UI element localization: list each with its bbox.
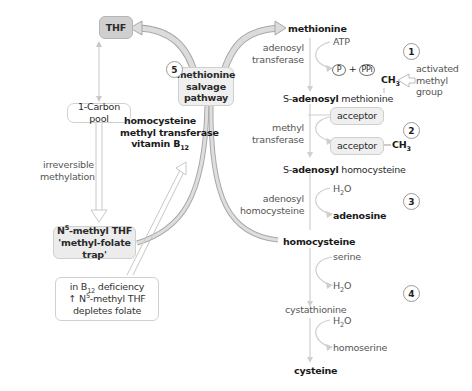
step-1-badge: 1 xyxy=(403,43,420,60)
salvage-line3: pathway xyxy=(184,92,228,104)
activated-methyl-arrow xyxy=(398,74,415,87)
step3-enzyme-label: adenosyl homocysteine xyxy=(240,193,304,216)
pathway-arrows xyxy=(0,0,472,391)
methionine-label: methionine xyxy=(288,23,347,35)
step-4-badge: 4 xyxy=(403,285,420,302)
homoserine-label: homoserine xyxy=(333,342,387,354)
arrow-thf-carbon-pool xyxy=(96,41,102,102)
h2o-step4a: H2O xyxy=(333,280,351,292)
n5-line1: N5-methyl THF xyxy=(57,225,132,237)
acceptor-input-box: acceptor xyxy=(330,107,384,125)
activated-methyl-group-label: activated methyl group xyxy=(416,63,459,98)
n5-line2: 'methyl-folate trap' xyxy=(54,237,135,261)
homocysteine-label: homocysteine xyxy=(283,236,355,248)
step-2-badge: 2 xyxy=(403,122,420,139)
thf-label: THF xyxy=(106,22,126,34)
cysteine-label: cysteine xyxy=(294,365,337,377)
atp-label: ATP xyxy=(333,36,350,48)
b12-note-line2: ↑ N5-methyl THF xyxy=(68,293,145,305)
methionine-salvage-box: methionine salvage pathway xyxy=(178,67,234,106)
p-ppi-label: P + PPi xyxy=(332,63,375,76)
b12-deficiency-note: in B12 deficiency ↑ N5-methyl THF deplet… xyxy=(55,277,159,321)
s-adenosyl-methionine-label: S-adenosyl methionine xyxy=(283,93,393,105)
enzyme-line2: methyl transferase xyxy=(120,127,200,139)
irreversible-line1: irreversible xyxy=(40,159,94,171)
thf-box: THF xyxy=(99,16,133,39)
s-adenosyl-homocysteine-label: S-adenosyl homocysteine xyxy=(283,164,406,176)
b12-note-line3: depletes folate xyxy=(73,305,141,317)
step2-enzyme-label: methyl transferase xyxy=(240,122,304,145)
adenosine-label: adenosine xyxy=(333,210,386,222)
homocysteine-methyltransferase-label: homocysteine methyl transferase vitamin … xyxy=(120,115,200,150)
ch3-transferred: CH3 xyxy=(392,139,411,151)
step1-enzyme-label: adenosyl transferase xyxy=(240,42,304,65)
serine-label: serine xyxy=(333,251,361,263)
ch3-activated: CH3 xyxy=(381,74,400,86)
salvage-line1: methionine xyxy=(177,69,236,81)
enzyme-line3: vitamin B12 xyxy=(120,138,200,150)
cystathionine-label: cystathionine xyxy=(285,304,346,316)
irreversible-line2: methylation xyxy=(40,171,94,183)
h2o-step3: H2O xyxy=(333,183,351,195)
step-3-badge: 3 xyxy=(403,193,420,210)
n5-methyl-thf-box: N5-methyl THF 'methyl-folate trap' xyxy=(53,226,136,259)
salvage-line2: salvage xyxy=(186,81,226,93)
acceptor-output-box: acceptor xyxy=(330,137,384,155)
step-5-badge: 5 xyxy=(166,61,183,78)
b12-note-line1: in B12 deficiency xyxy=(70,281,145,293)
h2o-step4b: H2O xyxy=(333,315,351,327)
irreversible-methylation-label: irreversible methylation xyxy=(40,159,94,182)
enzyme-line1: homocysteine xyxy=(120,115,200,127)
